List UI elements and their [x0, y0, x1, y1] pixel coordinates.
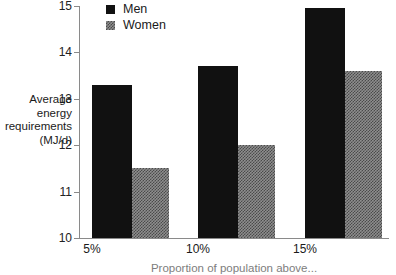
bar-men-15pct: [305, 8, 345, 238]
bar-men-10pct: [198, 66, 238, 238]
y-axis-title-line-2: energy: [0, 107, 72, 121]
bar-women-15pct: [345, 71, 382, 238]
plot-area: [79, 6, 389, 238]
y-axis-title-line-4: (MJ/d): [0, 134, 72, 148]
x-axis-title: Proportion of population above...: [79, 262, 389, 275]
x-tick-label-5pct: 5%: [62, 243, 122, 256]
bar-women-5pct: [132, 168, 169, 238]
x-axis-line: [79, 238, 389, 239]
y-axis-title-line-1: Average: [0, 93, 72, 107]
x-tick-label-15pct: 15%: [275, 243, 335, 256]
bar-men-5pct: [92, 85, 132, 238]
x-tick-label-10pct: 10%: [168, 243, 228, 256]
y-axis-title-line-3: requirements: [0, 120, 72, 134]
y-tick-mark-10: [74, 238, 79, 239]
y-axis-title: Average energy requirements (MJ/d): [0, 93, 72, 147]
bar-women-10pct: [238, 145, 275, 238]
y-tick-label-14: 14: [52, 46, 72, 58]
y-tick-label-15: 15: [52, 0, 72, 12]
y-tick-label-11: 11: [52, 186, 72, 198]
